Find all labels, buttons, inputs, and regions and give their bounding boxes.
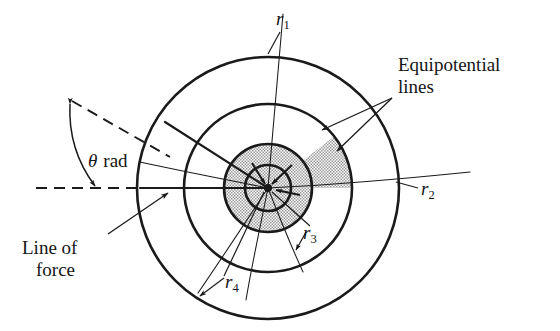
- label-r1: r1: [276, 8, 290, 32]
- label-equipotential-line1: Equipotential: [398, 54, 500, 75]
- label-equipotential-lines: Equipotential lines: [398, 54, 500, 98]
- label-theta-unit: rad: [103, 150, 127, 171]
- label-r1-subscript: 1: [283, 18, 289, 32]
- label-r2: r2: [421, 178, 435, 202]
- equipotential-field-diagram: [0, 0, 560, 331]
- label-theta-rad: θrad: [88, 150, 128, 171]
- label-r4-subscript: 4: [232, 281, 238, 295]
- label-r3-subscript: 3: [310, 232, 316, 246]
- label-line-of-force: Line of force: [22, 237, 77, 281]
- label-line-of-force-line1: Line of: [22, 237, 77, 258]
- center-point: [264, 184, 272, 192]
- label-theta-symbol: θ: [88, 150, 97, 171]
- label-r4: r4: [225, 271, 239, 295]
- label-line-of-force-line2: force: [36, 259, 77, 281]
- label-r3: r3: [303, 222, 317, 246]
- label-r2-subscript: 2: [428, 188, 434, 202]
- label-equipotential-line2: lines: [398, 76, 434, 97]
